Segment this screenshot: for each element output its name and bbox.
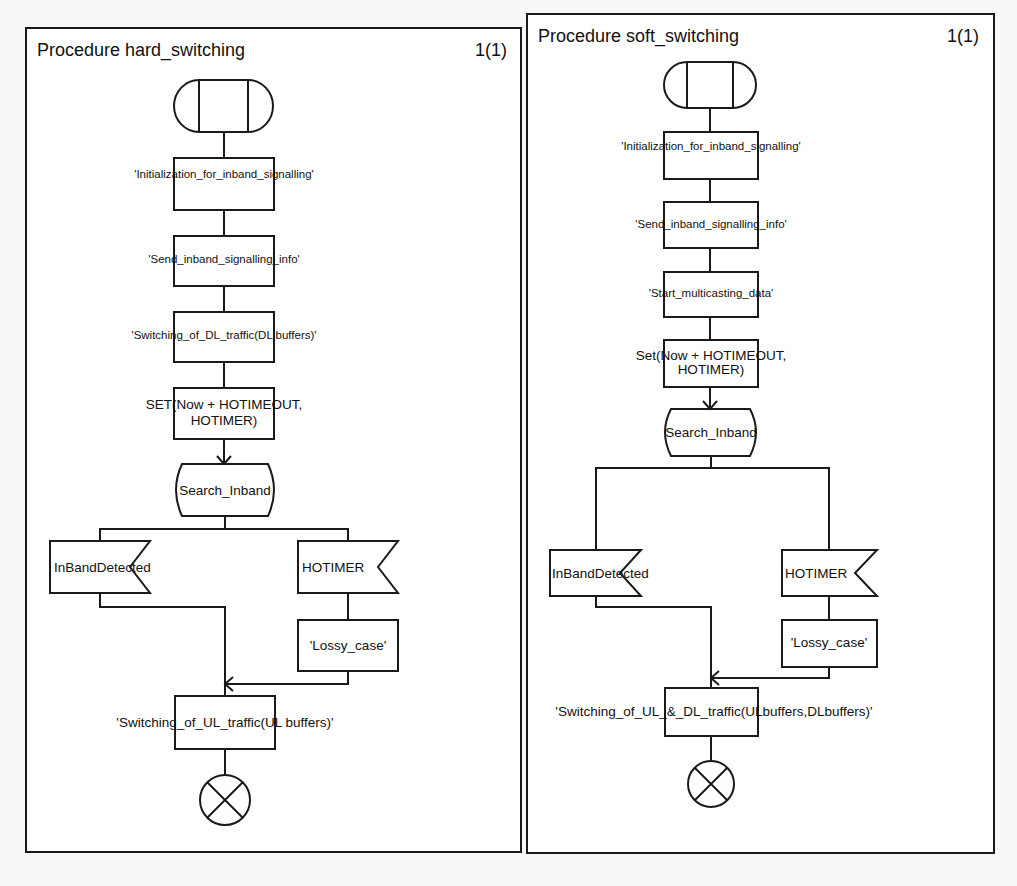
panel-soft-switching: Procedure soft_switching 1(1) 'Initializ… <box>527 14 994 853</box>
timer-set-label-line1: SET(Now + HOTIMEOUT, <box>146 397 302 412</box>
task-label-lossy-case: 'Lossy_case' <box>310 638 386 653</box>
procedure-title: Procedure soft_switching <box>538 26 739 47</box>
input-label-right: HOTIMER <box>785 566 847 581</box>
page-number: 1(1) <box>475 40 507 60</box>
timer-set-label-line2: HOTIMER) <box>678 362 745 377</box>
timer-set-label-line2: HOTIMER) <box>191 413 258 428</box>
task-label-initialization: 'Initialization_for_inband_signalling' <box>621 140 801 152</box>
task-label-lossy-case: 'Lossy_case' <box>791 635 867 650</box>
input-label-right: HOTIMER <box>302 560 364 575</box>
task-label-initialization: 'Initialization_for_inband_signalling' <box>134 168 314 180</box>
panel-hard-switching: Procedure hard_switching 1(1) 'Initializ… <box>26 28 521 852</box>
task-label-switching-ul-dl: 'Switching_of_UL_&_DL_traffic(ULbuffers,… <box>555 704 872 719</box>
state-label: Search_Inband <box>179 483 271 498</box>
procedure-title: Procedure hard_switching <box>37 40 245 61</box>
task-label-send-info: 'Send_inband_signalling_info' <box>148 253 299 265</box>
task-label-send-info: 'Send_inband_signalling_info' <box>635 218 786 230</box>
task-label-switching-dl: 'Switching_of_DL_traffic(DL buffers)' <box>131 329 316 341</box>
input-label-left: InBandDetected <box>552 566 649 581</box>
state-label: Search_Inband <box>665 425 757 440</box>
task-label-switching-ul: 'Switching_of_UL_traffic(UL buffers)' <box>116 715 333 730</box>
timer-set-label-line1: Set(Now + HOTIMEOUT, <box>636 348 786 363</box>
input-label-left: InBandDetected <box>54 560 151 575</box>
task-label-start-multicasting: 'Start_multicasting_data' <box>649 287 774 299</box>
page-number: 1(1) <box>947 26 979 46</box>
